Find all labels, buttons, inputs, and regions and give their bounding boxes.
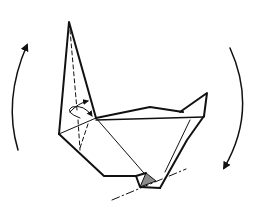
bottom-point (136, 173, 160, 188)
rotate-left-arrow-icon (12, 45, 27, 150)
rotate-right-arrow-icon (224, 48, 243, 168)
diagram-canvas (0, 0, 256, 219)
valley-fold-line (112, 169, 186, 200)
loop-arrow-icon (69, 106, 92, 118)
